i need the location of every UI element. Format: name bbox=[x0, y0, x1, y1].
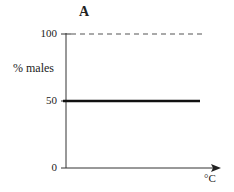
y-tick-label-0: 0 bbox=[27, 161, 57, 173]
y-tick-label-100: 100 bbox=[27, 27, 57, 39]
x-axis-label: °C bbox=[204, 172, 216, 184]
y-axis-label: % males bbox=[13, 61, 54, 76]
panel-letter: A bbox=[79, 4, 89, 20]
chart-panel-a: A % males 100 50 0 °C bbox=[0, 0, 234, 192]
y-tick-label-50: 50 bbox=[27, 94, 57, 106]
